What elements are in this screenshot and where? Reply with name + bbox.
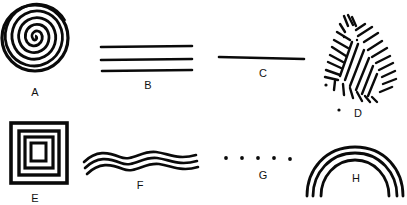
label-c: C xyxy=(259,68,267,79)
label-b: B xyxy=(144,80,151,91)
single-line-icon xyxy=(219,57,304,59)
figure-drawing xyxy=(0,0,407,205)
wavy-lines-icon xyxy=(84,152,198,174)
label-f: F xyxy=(137,180,144,191)
nested-squares-icon xyxy=(11,123,67,183)
label-h: H xyxy=(352,173,360,184)
symbol-figure: A B C D E F G H xyxy=(0,0,407,205)
label-a: A xyxy=(31,87,38,98)
label-d: D xyxy=(354,108,362,119)
hatched-blob-icon xyxy=(325,15,396,102)
three-lines-icon xyxy=(101,46,192,71)
spiral-circle-icon xyxy=(2,4,68,71)
label-g: G xyxy=(259,170,268,181)
label-e: E xyxy=(31,193,38,204)
dot-row-icon xyxy=(224,156,292,161)
